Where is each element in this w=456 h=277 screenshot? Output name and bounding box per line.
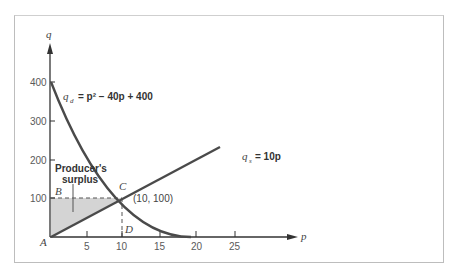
svg-text:q: q <box>63 90 69 102</box>
x-tick-10: 10 <box>116 241 128 252</box>
point-d-label: D <box>124 223 133 235</box>
demand-equation: q d = p² − 40p + 400 <box>63 90 153 105</box>
point-c-label: C <box>119 180 127 192</box>
y-tick-200: 200 <box>30 155 47 166</box>
x-axis-label: p <box>300 230 307 242</box>
svg-text:q: q <box>242 150 248 162</box>
svg-text:d: d <box>70 97 74 105</box>
x-tick-5: 5 <box>84 241 90 252</box>
y-axis-arrow-icon <box>47 43 53 54</box>
supply-demand-diagram: 100 200 300 400 5 10 15 20 25 q p A B C … <box>0 0 456 277</box>
y-tick-400: 400 <box>30 77 47 88</box>
svg-text:= 10p: = 10p <box>255 151 281 162</box>
supply-equation: q s = 10p <box>242 150 281 165</box>
supply-curve <box>51 147 220 237</box>
y-tick-300: 300 <box>30 116 47 127</box>
surplus-label-line2: surplus <box>62 174 99 185</box>
equilibrium-label: (10, 100) <box>133 193 173 204</box>
x-tick-20: 20 <box>191 241 203 252</box>
surplus-label-line1: Producer's <box>55 163 107 174</box>
svg-text:s: s <box>249 157 252 165</box>
point-b-label: B <box>55 185 62 197</box>
y-axis-label: q <box>46 28 52 40</box>
y-tick-100: 100 <box>30 193 47 204</box>
x-axis-arrow-icon <box>287 234 298 240</box>
svg-text:= p² − 40p + 400: = p² − 40p + 400 <box>78 91 153 102</box>
x-tick-15: 15 <box>154 241 166 252</box>
point-a-label: A <box>39 236 47 248</box>
x-tick-25: 25 <box>229 241 241 252</box>
